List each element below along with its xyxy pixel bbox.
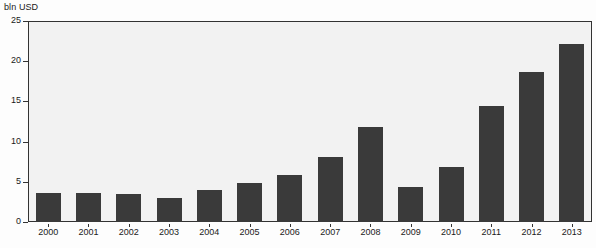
bar [197,190,222,222]
bar [36,193,61,222]
y-axis-tick-mark [23,222,28,223]
bar [358,127,383,222]
x-axis-tick-label: 2001 [68,227,108,237]
y-axis-tick-label: 10 [11,136,21,146]
bar [519,72,544,222]
x-axis-tick-label: 2009 [391,227,431,237]
x-axis-tick-label: 2008 [350,227,390,237]
x-axis-tick-label: 2005 [229,227,269,237]
x-axis-tick-label: 2012 [511,227,551,237]
bar [479,106,504,222]
x-axis-tick-label: 2007 [310,227,350,237]
bar [76,193,101,222]
bars-layer [28,21,592,222]
x-axis: 2000200120022003200420052006200720082009… [28,224,592,244]
x-axis-tick-label: 2006 [270,227,310,237]
bar [237,183,262,222]
x-axis-tick-label: 2000 [28,227,68,237]
x-axis-tick-label: 2011 [471,227,511,237]
y-axis-tick-label: 0 [16,216,21,226]
bar [439,167,464,222]
bar-chart: bln USD 0510152025 200020012002200320042… [0,0,596,248]
x-axis-tick-label: 2013 [552,227,592,237]
y-axis-tick-label: 20 [11,55,21,65]
y-axis-unit-label: bln USD [4,2,38,12]
bar [277,175,302,222]
bar [398,187,423,222]
bar [559,44,584,222]
y-axis-tick-label: 15 [11,95,21,105]
bar [318,157,343,222]
bar [116,194,141,222]
x-axis-tick-label: 2010 [431,227,471,237]
x-axis-tick-label: 2003 [149,227,189,237]
y-axis-tick-label: 5 [16,176,21,186]
x-axis-tick-label: 2004 [189,227,229,237]
x-axis-tick-label: 2002 [109,227,149,237]
y-axis-tick-label: 25 [11,15,21,25]
bar [157,198,182,222]
